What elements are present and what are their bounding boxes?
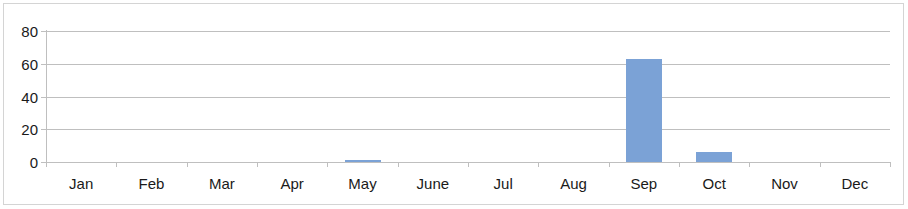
x-axis-tick-label: Sep bbox=[609, 176, 679, 191]
x-axis-tick-mark bbox=[398, 162, 399, 167]
x-axis-tick-label: Apr bbox=[257, 176, 327, 191]
x-axis-tick-mark bbox=[46, 162, 47, 167]
x-axis-tick-label: Jul bbox=[468, 176, 538, 191]
x-axis-tick-mark bbox=[187, 162, 188, 167]
y-axis-tick-label: 40 bbox=[4, 90, 38, 105]
x-axis-tick-mark bbox=[749, 162, 750, 167]
gridline-y-40 bbox=[46, 97, 890, 98]
x-axis-tick-mark bbox=[890, 162, 891, 167]
x-axis-tick-mark bbox=[257, 162, 258, 167]
x-axis-tick-label: May bbox=[327, 176, 397, 191]
y-axis-tick-mark bbox=[41, 97, 46, 98]
y-axis-tick-mark bbox=[41, 31, 46, 32]
gridline-y-20 bbox=[46, 129, 890, 130]
x-axis-tick-mark bbox=[609, 162, 610, 167]
x-axis-tick-label: Dec bbox=[820, 176, 890, 191]
x-axis-tick-mark bbox=[538, 162, 539, 167]
y-axis-tick-mark bbox=[41, 64, 46, 65]
x-axis-tick-label: June bbox=[398, 176, 468, 191]
bar-chart: 020406080 JanFebMarAprMayJuneJulAugSepOc… bbox=[0, 0, 908, 209]
bar bbox=[696, 152, 732, 162]
bar bbox=[626, 59, 662, 162]
y-axis-tick-label: 20 bbox=[4, 122, 38, 137]
x-axis-tick-mark bbox=[116, 162, 117, 167]
x-axis-tick-mark bbox=[679, 162, 680, 167]
gridline-y-60 bbox=[46, 64, 890, 65]
x-axis-labels: JanFebMarAprMayJuneJulAugSepOctNovDec bbox=[46, 176, 890, 198]
y-axis-tick-label: 80 bbox=[4, 24, 38, 39]
gridline-y-80 bbox=[46, 31, 890, 32]
x-axis-tick-mark bbox=[327, 162, 328, 167]
x-axis-tick-label: Aug bbox=[538, 176, 608, 191]
x-axis-tick-mark bbox=[820, 162, 821, 167]
y-axis-tick-label: 60 bbox=[4, 57, 38, 72]
y-axis-labels: 020406080 bbox=[0, 0, 38, 209]
x-axis-tick-label: Feb bbox=[116, 176, 186, 191]
y-axis-tick-label: 0 bbox=[4, 155, 38, 170]
x-axis-tick-label: Nov bbox=[749, 176, 819, 191]
x-axis-tick-mark bbox=[468, 162, 469, 167]
x-axis-tick-label: Jan bbox=[46, 176, 116, 191]
x-axis-tick-label: Oct bbox=[679, 176, 749, 191]
x-axis-tick-label: Mar bbox=[187, 176, 257, 191]
y-axis-tick-mark bbox=[41, 129, 46, 130]
plot-area bbox=[46, 31, 890, 162]
